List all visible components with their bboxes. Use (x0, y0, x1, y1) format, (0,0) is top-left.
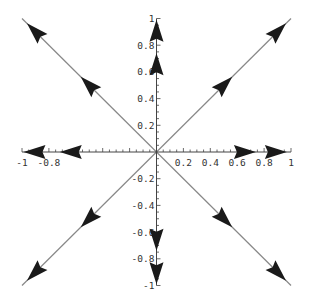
x-tick-label: 0.8 (256, 157, 273, 168)
x-tick-label: 0.6 (229, 157, 246, 168)
x-tick-label: 1 (288, 157, 294, 168)
x-tick-label: 0.2 (175, 157, 192, 168)
arrow-left-icon (60, 145, 82, 159)
x-tick-label: 0.4 (202, 157, 219, 168)
y-tick-label: -0.4 (132, 200, 155, 211)
arrow-right-icon (265, 145, 287, 159)
x-tick-label: -0.8 (37, 157, 60, 168)
x-tick-label: -1 (16, 157, 28, 168)
y-tick-label: 0.4 (137, 93, 154, 104)
vector-plot: -1-0.80.20.40.60.8110.80.60.40.2-0.2-0.4… (0, 0, 312, 303)
y-tick-label: -1 (143, 280, 155, 291)
arrow-down-icon (150, 229, 164, 251)
y-tick-label: -0.8 (132, 253, 155, 264)
y-tick-label: 0.2 (137, 120, 154, 131)
arrow-up-icon (150, 53, 164, 75)
y-tick-label: 0.8 (137, 40, 154, 51)
y-tick-label: 1 (149, 13, 155, 24)
y-tick-label: -0.2 (132, 173, 155, 184)
